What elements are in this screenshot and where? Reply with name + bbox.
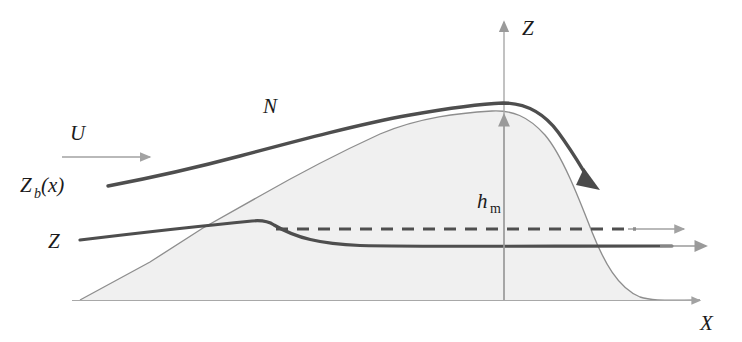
hm-label-subscript: m: [490, 201, 501, 216]
diagram-root: Z X U N Z b (x) Z h m: [0, 0, 742, 342]
z-axis-label: Z: [522, 16, 534, 40]
mountain-wave-schematic: Z X U N Z b (x) Z h m: [0, 0, 742, 342]
mountain-fill: [80, 111, 700, 300]
x-axis-label: X: [699, 311, 714, 335]
zb-plunge-arrowhead: [576, 168, 600, 190]
zb-label-argument: (x): [41, 173, 64, 197]
hm-label-base: h: [477, 189, 488, 213]
lower-streamline-label: Z: [48, 229, 60, 253]
zb-label-base: Z: [20, 173, 32, 197]
zb-label-subscript: b: [34, 186, 41, 201]
brunt-vaisala-label: N: [262, 94, 278, 118]
mountain-profile: [80, 111, 700, 300]
upper-streamline-label: Z b (x): [20, 173, 64, 201]
wind-speed-label: U: [70, 121, 87, 145]
